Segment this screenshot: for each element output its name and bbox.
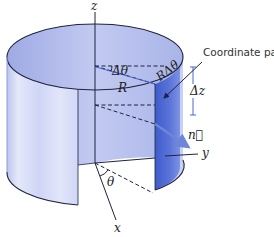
delta-theta-label: Δθ (111, 64, 129, 78)
normal-vector-label: n⃗ (188, 128, 203, 142)
callout-label: Coordinate patch (203, 46, 274, 58)
radius-label: R (117, 81, 127, 95)
y-axis-label: y (201, 146, 209, 160)
z-axis-label: z (90, 0, 98, 13)
x-axis (95, 163, 116, 220)
theta-label: θ (107, 175, 115, 189)
delta-z-label: Δz (189, 84, 206, 98)
theta-projection (95, 163, 153, 193)
x-axis-label: x (114, 221, 121, 235)
cylinder-coordinate-diagram: z Δθ R RΔθ y n⃗ x θ Δz Coordinate patch (0, 0, 274, 237)
